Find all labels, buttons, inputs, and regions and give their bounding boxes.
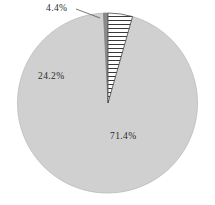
pie-chart: 4.4% 24.2% 71.4%	[0, 0, 215, 205]
pie-label-hatched: 4.4%	[46, 4, 67, 14]
pie-chart-canvas	[0, 0, 215, 205]
pie-label-light: 71.4%	[110, 132, 137, 142]
pie-label-dark: 24.2%	[38, 72, 65, 82]
